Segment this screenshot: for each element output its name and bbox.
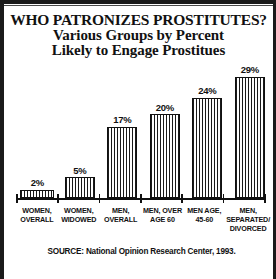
category-label: MEN, OVERAGE 60 (142, 206, 184, 233)
top-divider-rule (4, 5, 273, 6)
bar-group: 17% (101, 64, 144, 198)
chart-title-line-1: WHO PATRONIZES PROSTITUTES? (4, 12, 273, 28)
category-label: WOMEN,WIDOWED (58, 206, 100, 233)
bar (107, 127, 137, 198)
category-label-line: OVERALL (17, 215, 57, 224)
bar (192, 98, 222, 199)
chart-title-line-3: Likely to Engage Prostitues (4, 43, 273, 58)
category-label-line: DIVORCED (226, 224, 270, 233)
category-label-line: MEN, OVER (143, 206, 183, 215)
bar (235, 77, 265, 198)
infographic-panel: WHO PATRONIZES PROSTITUTES? Various Grou… (0, 0, 276, 279)
bar-group: 2% (16, 64, 59, 198)
chart-title-line-2: Various Groups by Percent (4, 28, 273, 43)
category-label-line: WOMEN, (59, 206, 99, 215)
chart-title-block: WHO PATRONIZES PROSTITUTES? Various Grou… (4, 12, 273, 58)
bar-group: 29% (229, 64, 272, 198)
category-label-line: MEN, (226, 206, 270, 215)
bar-group: 20% (144, 64, 187, 198)
x-axis-baseline (16, 198, 264, 200)
bar-value-label: 20% (156, 103, 174, 113)
category-label: MEN,SEPARATED/DIVORCED (225, 206, 271, 233)
x-axis-category-labels: WOMEN,OVERALLWOMEN,WIDOWEDMEN,OVERALLMEN… (16, 206, 271, 233)
bar-value-label: 17% (113, 115, 131, 125)
category-label: MEN,OVERALL (100, 206, 142, 233)
bar-value-label: 5% (73, 166, 86, 176)
category-label-line: MEN AGE, (184, 206, 224, 215)
category-label-line: AGE 60 (143, 215, 183, 224)
category-label-line: MEN, (101, 206, 141, 215)
bar-series: 2%5%17%20%24%29% (16, 64, 271, 198)
category-label-line: OVERALL (101, 215, 141, 224)
bar-group: 5% (59, 64, 102, 198)
category-label-line: WIDOWED (59, 215, 99, 224)
bar-value-label: 2% (31, 178, 44, 188)
category-label-line: SEPARATED/ (226, 215, 270, 224)
source-note: SOURCE: National Opinion Research Center… (4, 247, 273, 256)
category-label-line: 45-60 (184, 215, 224, 224)
category-label: WOMEN,OVERALL (16, 206, 58, 233)
bar-group: 24% (186, 64, 229, 198)
category-label: MEN AGE,45-60 (183, 206, 225, 233)
bar-value-label: 24% (198, 86, 216, 96)
axis-tick (264, 194, 266, 203)
chart-plot-area: 2%5%17%20%24%29% (16, 64, 271, 198)
category-label-line: WOMEN, (17, 206, 57, 215)
bar (150, 114, 180, 198)
bar-value-label: 29% (241, 65, 259, 75)
